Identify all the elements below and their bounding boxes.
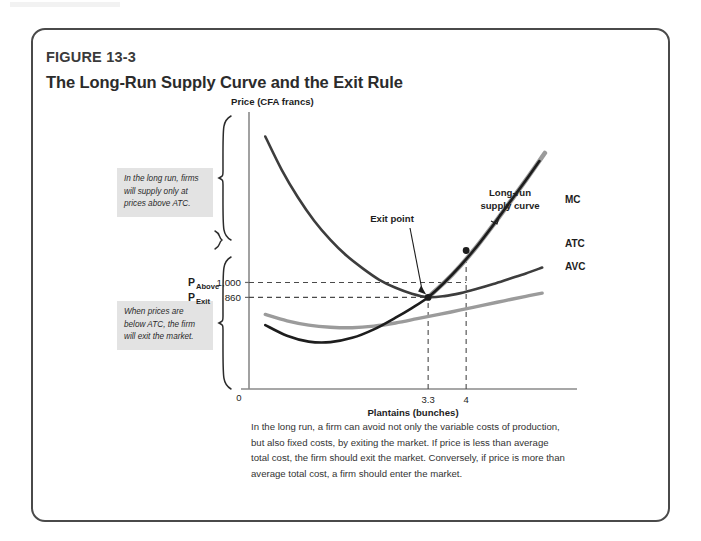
callout-above-atc: In the long run, firms will supply only …: [117, 168, 213, 217]
figure-title: The Long-Run Supply Curve and the Exit R…: [46, 73, 403, 92]
figure-caption: In the long run, a firm can avoid not on…: [251, 419, 569, 481]
callout-below-atc: When prices are below ATC, the firm will…: [117, 301, 213, 350]
figure-number: FIGURE 13-3: [46, 49, 136, 65]
scan-artifact: [10, 2, 120, 7]
